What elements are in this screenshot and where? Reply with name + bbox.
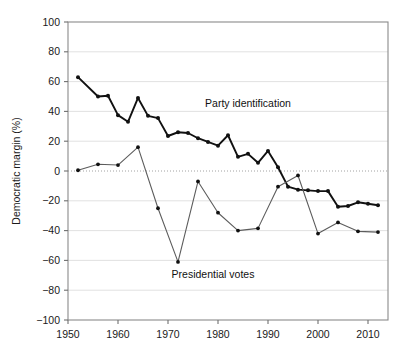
ytick-label-100: 100 [42, 16, 60, 28]
xtick-label-2000: 2000 [306, 328, 330, 340]
ytick-label--40: −40 [42, 224, 60, 236]
datapoint-party-identification-1982 [226, 133, 230, 137]
datapoint-presidential-votes-1992 [276, 185, 280, 189]
datapoint-party-identification-1974 [186, 131, 190, 135]
datapoint-presidential-votes-2012 [376, 230, 380, 234]
ytick-label-0: 0 [54, 165, 60, 177]
datapoint-presidential-votes-1988 [256, 226, 260, 230]
datapoint-party-identification-1990 [266, 149, 270, 153]
datapoint-party-identification-1984 [236, 155, 240, 159]
datapoint-presidential-votes-1964 [136, 145, 140, 149]
ytick-label-20: 20 [48, 135, 60, 147]
datapoint-party-identification-2000 [316, 189, 320, 193]
datapoint-party-identification-1992 [276, 165, 280, 169]
xtick-label-1950: 1950 [56, 328, 80, 340]
datapoint-party-identification-1980 [216, 144, 220, 148]
datapoint-party-identification-1986 [246, 152, 250, 156]
datapoint-party-identification-1972 [176, 130, 180, 134]
datapoint-party-identification-2002 [326, 189, 330, 193]
datapoint-party-identification-1956 [96, 95, 100, 99]
datapoint-party-identification-1976 [196, 136, 200, 140]
ytick-label-80: 80 [48, 45, 60, 57]
datapoint-party-identification-1960 [116, 113, 120, 117]
series-annotation-party-identification: Party identification [205, 97, 291, 109]
datapoint-party-identification-2012 [376, 203, 380, 207]
datapoint-party-identification-1978 [206, 140, 210, 144]
series-line-presidential-votes [78, 147, 378, 262]
datapoint-party-identification-1952 [76, 75, 80, 79]
datapoint-party-identification-2008 [356, 200, 360, 204]
datapoint-presidential-votes-1984 [236, 229, 240, 233]
datapoint-presidential-votes-1968 [156, 206, 160, 210]
datapoint-party-identification-1994 [286, 185, 290, 189]
datapoint-presidential-votes-1972 [176, 260, 180, 264]
datapoint-party-identification-1968 [156, 116, 160, 120]
datapoint-presidential-votes-1956 [96, 162, 100, 166]
datapoint-presidential-votes-1996 [296, 174, 300, 178]
datapoint-party-identification-2010 [366, 202, 370, 206]
datapoint-party-identification-1988 [256, 161, 260, 165]
ytick-label--100: −100 [36, 314, 60, 326]
datapoint-party-identification-1958 [106, 94, 110, 98]
datapoint-party-identification-2006 [346, 204, 350, 208]
datapoint-party-identification-1964 [136, 96, 140, 100]
datapoint-party-identification-1996 [296, 188, 300, 192]
ytick-label--80: −80 [42, 284, 60, 296]
datapoint-party-identification-1970 [166, 134, 170, 138]
xtick-label-1960: 1960 [106, 328, 130, 340]
ytick-label--20: −20 [42, 194, 60, 206]
y-axis-title: Democratic margin (%) [10, 117, 22, 224]
datapoint-presidential-votes-1976 [196, 180, 200, 184]
datapoint-presidential-votes-2000 [316, 232, 320, 236]
datapoint-presidential-votes-1980 [216, 211, 220, 215]
ytick-label-60: 60 [48, 75, 60, 87]
xtick-label-1970: 1970 [156, 328, 180, 340]
datapoint-presidential-votes-1960 [116, 163, 120, 167]
datapoint-party-identification-1962 [126, 120, 130, 124]
xtick-label-1990: 1990 [256, 328, 280, 340]
democratic-margin-line-chart: −100−80−60−40−20020406080100195019601970… [0, 0, 401, 364]
caption-strip [0, 352, 401, 364]
ytick-label-40: 40 [48, 105, 60, 117]
datapoint-presidential-votes-2008 [356, 229, 360, 233]
datapoint-party-identification-1966 [146, 114, 150, 118]
series-annotation-presidential-votes: Presidential votes [172, 268, 255, 280]
xtick-label-2010: 2010 [356, 328, 380, 340]
datapoint-party-identification-2004 [336, 205, 340, 209]
datapoint-presidential-votes-2004 [336, 221, 340, 225]
ytick-label--60: −60 [42, 254, 60, 266]
xtick-label-1980: 1980 [206, 328, 230, 340]
datapoint-presidential-votes-1952 [76, 168, 80, 172]
datapoint-party-identification-1998 [306, 188, 310, 192]
chart-figure: −100−80−60−40−20020406080100195019601970… [0, 0, 401, 364]
